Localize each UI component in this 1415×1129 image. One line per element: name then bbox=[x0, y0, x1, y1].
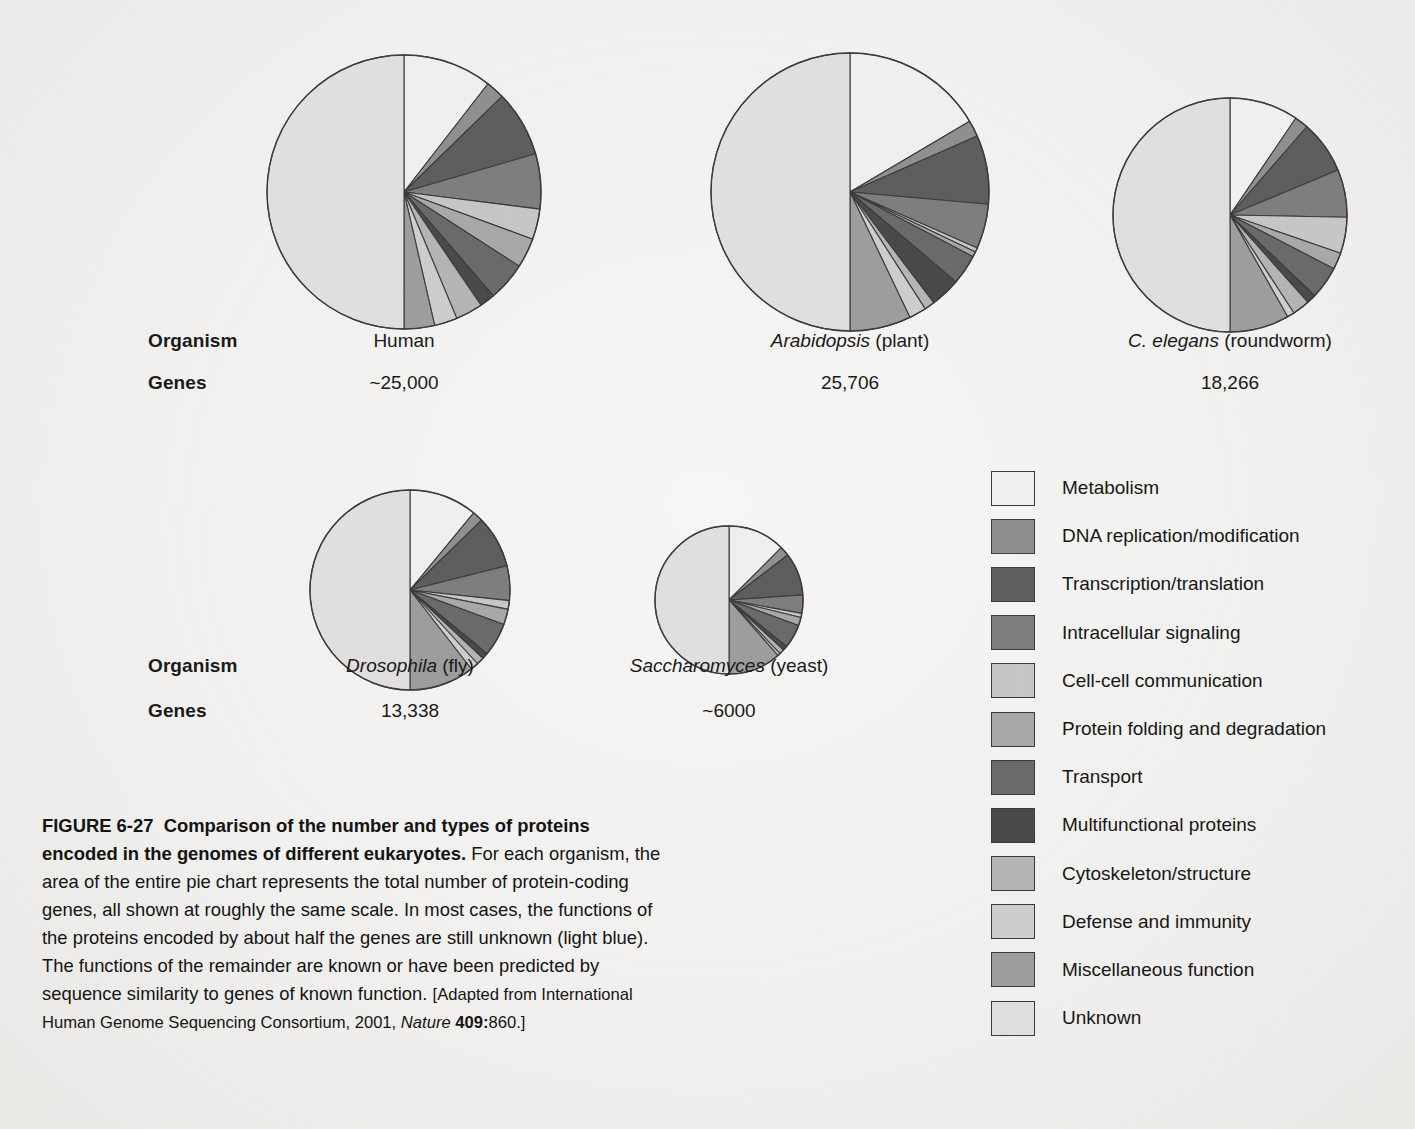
legend-label: Transcription/translation bbox=[1062, 573, 1264, 595]
pie-slice bbox=[655, 526, 729, 674]
gene-count-2: 18,266 bbox=[1201, 372, 1259, 394]
species-common-name: (roundworm) bbox=[1219, 330, 1332, 351]
figure-caption: FIGURE 6-27 Comparison of the number and… bbox=[42, 812, 667, 1036]
organism-name-4: Saccharomyces (yeast) bbox=[630, 655, 829, 677]
legend-label: Defense and immunity bbox=[1062, 911, 1251, 933]
legend-item: Multifunctional proteins bbox=[991, 801, 1391, 849]
gene-count-1: 25,706 bbox=[821, 372, 879, 394]
species-common-name: (fly) bbox=[437, 655, 474, 676]
source-journal: Nature bbox=[401, 1013, 451, 1032]
organism-name-2: C. elegans (roundworm) bbox=[1128, 330, 1332, 352]
legend-label: DNA replication/modification bbox=[1062, 525, 1300, 547]
pie-slice bbox=[711, 53, 850, 331]
legend-item: Cytoskeleton/structure bbox=[991, 850, 1391, 898]
pie-slice bbox=[267, 55, 404, 329]
legend-label: Intracellular signaling bbox=[1062, 622, 1241, 644]
pie-chart-arabidopsis bbox=[707, 49, 993, 335]
species-italic: C. elegans bbox=[1128, 330, 1219, 351]
figure-number: FIGURE 6-27 bbox=[42, 815, 153, 836]
legend-label: Transport bbox=[1062, 766, 1143, 788]
species-italic: Saccharomyces bbox=[630, 655, 765, 676]
legend-item: Miscellaneous function bbox=[991, 946, 1391, 994]
legend-swatch-icon bbox=[991, 663, 1035, 698]
legend-swatch-icon bbox=[991, 760, 1035, 795]
legend-item: Unknown bbox=[991, 994, 1391, 1042]
legend-swatch-icon bbox=[991, 615, 1035, 650]
species-italic: Arabidopsis bbox=[771, 330, 870, 351]
legend-label: Cytoskeleton/structure bbox=[1062, 863, 1251, 885]
source-volume: 409: bbox=[455, 1013, 488, 1032]
legend-item: DNA replication/modification bbox=[991, 512, 1391, 560]
legend-label: Miscellaneous function bbox=[1062, 959, 1254, 981]
legend-item: Defense and immunity bbox=[991, 898, 1391, 946]
row-label-organism-bottom: Organism bbox=[148, 655, 238, 677]
legend-swatch-icon bbox=[991, 904, 1035, 939]
legend: MetabolismDNA replication/modificationTr… bbox=[991, 464, 1391, 1042]
legend-label: Protein folding and degradation bbox=[1062, 718, 1326, 740]
legend-swatch-icon bbox=[991, 856, 1035, 891]
figure-body-text: For each organism, the area of the entir… bbox=[42, 843, 660, 1004]
row-label-genes-top: Genes bbox=[148, 372, 207, 394]
pie-slice bbox=[1113, 98, 1230, 332]
legend-swatch-icon bbox=[991, 519, 1035, 554]
legend-label: Unknown bbox=[1062, 1007, 1141, 1029]
gene-count-3: 13,338 bbox=[381, 700, 439, 722]
legend-label: Cell-cell communication bbox=[1062, 670, 1263, 692]
legend-item: Cell-cell communication bbox=[991, 657, 1391, 705]
gene-count-0: ~25,000 bbox=[369, 372, 438, 394]
source-close-text: 860.] bbox=[488, 1013, 525, 1032]
species-common-name: (plant) bbox=[870, 330, 929, 351]
row-label-organism-top: Organism bbox=[148, 330, 238, 352]
legend-item: Intracellular signaling bbox=[991, 609, 1391, 657]
organism-name-1: Arabidopsis (plant) bbox=[771, 330, 929, 352]
legend-label: Metabolism bbox=[1062, 477, 1159, 499]
species-common-name: (yeast) bbox=[765, 655, 828, 676]
pie-chart-c bbox=[1109, 94, 1351, 336]
legend-item: Protein folding and degradation bbox=[991, 705, 1391, 753]
legend-label: Multifunctional proteins bbox=[1062, 814, 1256, 836]
legend-item: Metabolism bbox=[991, 464, 1391, 512]
gene-count-4: ~6000 bbox=[702, 700, 755, 722]
legend-swatch-icon bbox=[991, 952, 1035, 987]
legend-item: Transport bbox=[991, 753, 1391, 801]
legend-swatch-icon bbox=[991, 471, 1035, 506]
organism-name-0: Human bbox=[373, 330, 434, 352]
legend-swatch-icon bbox=[991, 808, 1035, 843]
species-italic: Drosophila bbox=[346, 655, 437, 676]
pie-chart-human bbox=[263, 51, 545, 333]
legend-swatch-icon bbox=[991, 712, 1035, 747]
legend-item: Transcription/translation bbox=[991, 560, 1391, 608]
row-label-genes-bottom: Genes bbox=[148, 700, 207, 722]
organism-name-3: Drosophila (fly) bbox=[346, 655, 474, 677]
legend-swatch-icon bbox=[991, 567, 1035, 602]
legend-swatch-icon bbox=[991, 1001, 1035, 1036]
